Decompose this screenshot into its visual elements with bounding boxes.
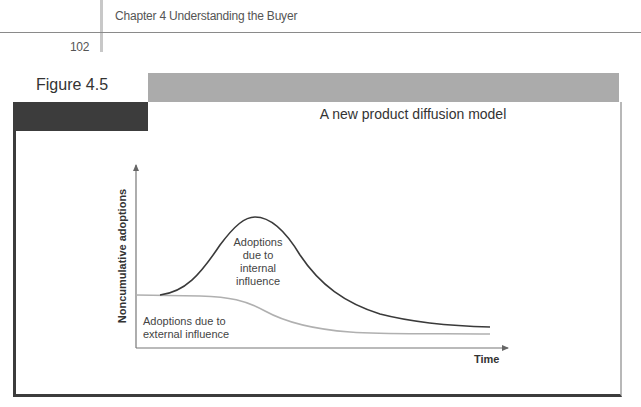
internal-influence-annotation: Adoptions due to internal influence <box>218 236 298 288</box>
internal-annotation-line2: due to <box>218 249 298 262</box>
diffusion-chart <box>0 0 641 407</box>
internal-annotation-line1: Adoptions <box>218 236 298 249</box>
external-annotation-line2: external influence <box>143 328 243 341</box>
internal-annotation-line3: internal influence <box>218 262 298 288</box>
external-influence-annotation: Adoptions due to external influence <box>143 315 243 341</box>
y-axis-label: Noncumulative adoptions <box>116 186 128 326</box>
x-axis-label: Time <box>474 353 499 365</box>
internal-influence-curve <box>160 217 490 327</box>
external-annotation-line1: Adoptions due to <box>143 315 243 328</box>
